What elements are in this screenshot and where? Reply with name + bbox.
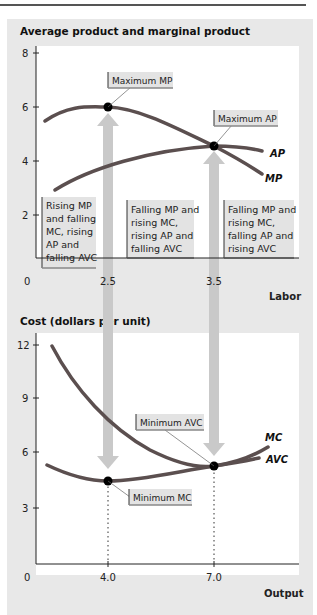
x-tick-7-0: 7.0 [206,572,222,583]
ap-curve-label: AP [269,148,286,159]
region-1-line-4: AP and [46,239,79,250]
x-tick-0: 0 [24,276,30,287]
region-2-line-2: rising MC, [131,217,178,228]
top-x-tick-labels: 0 2.5 3.5 [24,276,222,287]
region-2-line-3: rising AP and [131,230,193,241]
region-3-line-3: falling AP and [228,230,293,241]
y-tick-8: 8 [22,48,28,59]
region-1-line-2: and falling [46,213,96,224]
region-box-1: Rising MP and falling MC, rising AP and … [42,197,98,268]
region-2-line-1: Falling MP and [131,204,199,215]
max-mp-callout-text: Maximum MP [112,76,173,86]
bottom-x-axis-label: Output [264,588,304,599]
mc-curve-label: MC [265,432,283,443]
y-tick-6: 6 [22,102,28,113]
x-tick-3-5: 3.5 [206,276,222,287]
y-tick-12: 12 [17,340,30,351]
avc-curve-label: AVC [265,454,289,465]
max-ap-callout: Maximum AP [214,110,278,126]
region-3-line-4: rising AVC [228,243,277,254]
region-2-line-4: falling AVC [131,243,183,254]
region-1-line-1: Rising MP [46,200,92,211]
max-mp-callout: Maximum MP [108,72,173,88]
region-box-3: Falling MP and rising MC, falling AP and… [224,200,296,258]
min-avc-callout-text: Minimum AVC [140,418,203,428]
x-tick-4-0: 4.0 [100,572,116,583]
y-tick-9: 9 [22,393,28,404]
mp-curve-label: MP [265,173,283,184]
top-y-tick-labels: 8 6 4 2 [22,48,28,221]
top-x-axis-label: Labor [269,291,301,302]
region-box-2: Falling MP and rising MC, rising AP and … [127,200,199,258]
max-ap-callout-text: Maximum AP [218,114,277,124]
x-tick-0b: 0 [24,572,30,583]
bottom-plot-area [36,333,299,575]
min-mc-callout-text: Minimum MC [133,493,192,503]
y-tick-6b: 6 [22,447,28,458]
region-3-line-1: Falling MP and [228,204,296,215]
region-3-line-2: rising MC, [228,217,275,228]
y-tick-2: 2 [22,210,28,221]
y-tick-3: 3 [22,503,28,514]
min-avc-callout: Minimum AVC [136,414,204,430]
arrow-shaft-3-5 [209,163,219,444]
y-tick-4: 4 [22,156,28,167]
arrow-shaft-2-5 [103,124,113,458]
min-mc-callout: Minimum MC [129,489,192,505]
region-1-line-3: MC, rising [46,226,93,237]
bottom-y-tick-labels: 12 9 6 3 [17,340,30,514]
x-tick-2-5: 2.5 [100,276,116,287]
